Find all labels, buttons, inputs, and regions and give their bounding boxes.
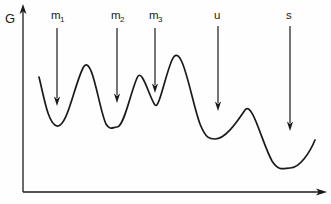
- marker-arrow-m2: [114, 28, 120, 103]
- curve-group: [39, 55, 315, 168]
- marker-label-s-base: s: [286, 9, 292, 21]
- y-axis-label: G: [5, 11, 15, 26]
- marker-label-m1-sub: 1: [60, 15, 65, 24]
- marker-label-m3: m 3: [149, 9, 163, 24]
- marker-label-s: s: [286, 9, 292, 21]
- marker-label-m1: m 1: [51, 9, 65, 24]
- marker-arrow-m1: [54, 28, 60, 106]
- figure-canvas: G: [0, 0, 331, 204]
- marker-arrow-u: [215, 26, 221, 111]
- marker-label-m3-sub: 3: [158, 15, 163, 24]
- marker-labels-group: m 1 m 2 m 3 u s: [51, 9, 292, 24]
- marker-label-m2-sub: 2: [120, 15, 125, 24]
- marker-label-m2: m 2: [111, 9, 125, 24]
- free-energy-curve: [39, 55, 315, 168]
- marker-label-u: u: [214, 9, 220, 21]
- axes-group: G: [5, 4, 327, 196]
- energy-landscape-figure: G: [0, 0, 331, 204]
- marker-label-u-base: u: [214, 9, 220, 21]
- marker-arrows-group: [54, 26, 293, 131]
- marker-arrow-s: [287, 26, 293, 131]
- marker-arrow-m3: [152, 28, 158, 93]
